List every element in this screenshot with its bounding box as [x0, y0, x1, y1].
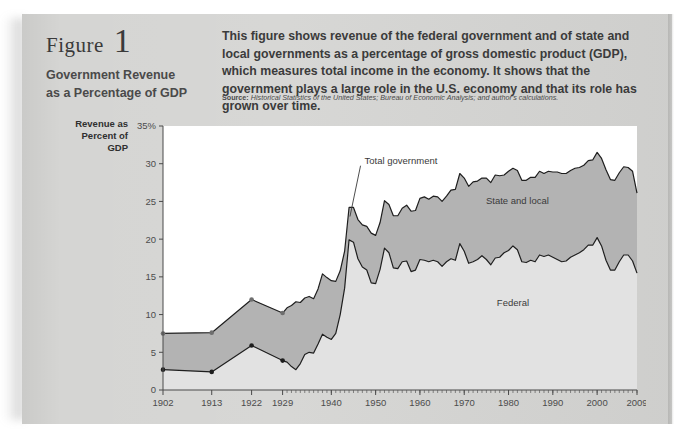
y-tick-label: 20 [145, 234, 156, 245]
figure-source: Source: Historical Statistics of the Uni… [222, 93, 652, 102]
figure-number: 1 [114, 26, 131, 57]
figure-title: Government Revenue as a Percentage of GD… [46, 67, 206, 103]
x-tick-label: 1902 [152, 397, 173, 408]
y-tick-label: 15 [145, 271, 156, 282]
annotation-federal: Federal [497, 297, 529, 308]
x-tick-label: 1922 [241, 397, 262, 408]
figure-page: Figure1 Government Revenue as a Percenta… [0, 0, 694, 434]
x-tick-label: 2000 [587, 397, 608, 408]
x-tick-label: 1990 [542, 397, 563, 408]
x-tick-label: 1970 [454, 397, 475, 408]
figure-title-line1: Government Revenue [46, 67, 206, 85]
marker-total [209, 330, 214, 335]
figure-title-line2: as a Percentage of GDP [46, 85, 206, 103]
y-tick-label: 25 [145, 196, 156, 207]
chart-svg: 05101520253035%1902191319221929194019501… [46, 118, 646, 408]
y-tick-label: 35% [137, 120, 157, 131]
x-tick-label: 1980 [498, 397, 519, 408]
annotation-state-and-local: State and local [486, 195, 549, 206]
figure-header: Figure1 Government Revenue as a Percenta… [46, 26, 206, 103]
y-tick-label: 5 [151, 347, 156, 358]
marker-total [249, 297, 254, 302]
marker-total [280, 311, 285, 316]
figure-description: This figure shows revenue of the federal… [222, 28, 650, 116]
x-tick-label: 1913 [201, 397, 222, 408]
x-tick-label: 1940 [321, 397, 342, 408]
x-tick-label: 1950 [365, 397, 386, 408]
annotation-total-government: Total government [365, 155, 438, 166]
y-tick-label: 0 [151, 384, 156, 395]
figure-label: Figure [46, 33, 104, 58]
marker-federal [209, 370, 214, 375]
marker-federal [280, 358, 285, 363]
y-tick-label: 10 [145, 309, 156, 320]
marker-federal [249, 343, 254, 348]
x-tick-label: 1929 [272, 397, 293, 408]
x-tick-label: 1960 [409, 397, 430, 408]
y-tick-label: 30 [145, 158, 156, 169]
x-tick-label: 2009 [626, 397, 646, 408]
source-text: Historical Statistics of the United Stat… [251, 93, 559, 102]
page-shadow [4, 18, 24, 420]
page-edge-right [668, 14, 674, 424]
source-label: Source: [222, 93, 249, 102]
chart: Revenue as Percent of GDP 05101520253035… [46, 118, 646, 408]
